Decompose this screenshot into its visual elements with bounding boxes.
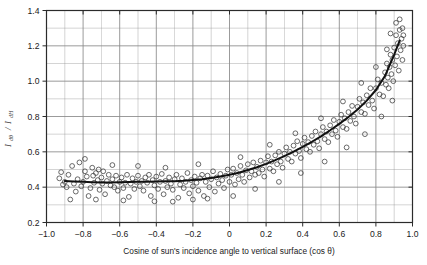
x-axis-tick-label: −0.2 [184,229,201,239]
x-axis-tick-label: −0.8 [75,229,92,239]
x-axis-tick-label: 1.0 [407,229,419,239]
x-axis-tick-label: −1.0 [38,229,55,239]
scatter-plot-figure: −1.0−0.8−0.6−0.4−0.200.20.40.60.81.0 0.2… [0,0,427,265]
x-axis-tick-label: 0.2 [260,229,272,239]
y-axis-tick-label: 0.6 [28,147,40,157]
x-axis-tick-label: 0.6 [333,229,345,239]
plot-canvas: −1.0−0.8−0.6−0.4−0.200.20.40.60.81.0 0.2… [0,0,427,265]
y-axis-tick-label: 0.2 [28,218,40,228]
y-axis-tick-label: 0.4 [28,182,40,192]
y-axis-denominator-subscript: dH [8,110,14,118]
x-axis-tick-label: −0.6 [111,229,128,239]
y-axis-tick-label: 1.0 [28,76,40,86]
x-axis-tick-label: 0 [227,229,232,239]
x-axis-title: Cosine of sun's incidence angle to verti… [123,246,335,256]
x-axis-tick-label: 0.8 [370,229,382,239]
x-axis-tick-label: −0.4 [148,229,165,239]
x-axis-tick-label: 0.4 [297,229,309,239]
y-axis-tick-label: 1.4 [28,6,40,16]
y-axis-tick-label: 1.2 [28,41,40,51]
y-axis-numerator-subscript: dθ [8,135,14,141]
y-axis-tick-label: 0.8 [28,112,40,122]
